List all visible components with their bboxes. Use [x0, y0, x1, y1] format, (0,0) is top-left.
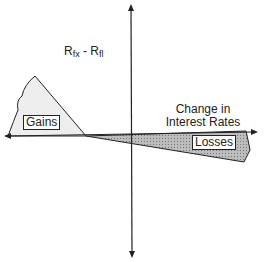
gains-label: Gains [23, 115, 60, 130]
x-label-line2: Interest Rates [153, 116, 253, 129]
y-label-sub1: fx [73, 49, 80, 59]
diagram-canvas [0, 0, 264, 262]
y-label-sep: - [80, 44, 91, 58]
x-axis-label: Change in Interest Rates [153, 103, 253, 129]
losses-label: Losses [192, 135, 236, 150]
y-label-r1: R [64, 44, 73, 58]
y-axis-label: Rfx - Rfl [64, 45, 104, 61]
y-label-r2: R [90, 44, 99, 58]
y-label-sub2: fl [99, 49, 104, 59]
y-axis [128, 4, 135, 258]
